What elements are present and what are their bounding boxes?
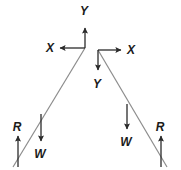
right-weight-label: W — [120, 135, 133, 149]
left-axis-system: Y X — [45, 4, 89, 55]
diagram-canvas: Y X Y X R W W R — [0, 0, 181, 170]
right-y-axis-label: Y — [93, 77, 102, 91]
right-x-axis-label: X — [126, 43, 136, 57]
right-member — [98, 50, 167, 167]
force-group: R W W R — [13, 104, 165, 167]
left-x-axis-label: X — [45, 41, 55, 55]
right-reaction-label: R — [156, 120, 165, 134]
free-body-diagram: Y X Y X R W W R — [0, 0, 181, 170]
left-weight-label: W — [34, 147, 47, 161]
left-member — [13, 48, 85, 167]
left-reaction-label: R — [13, 120, 22, 134]
right-axis-system: Y X — [93, 43, 136, 91]
left-y-axis-label: Y — [80, 4, 89, 18]
